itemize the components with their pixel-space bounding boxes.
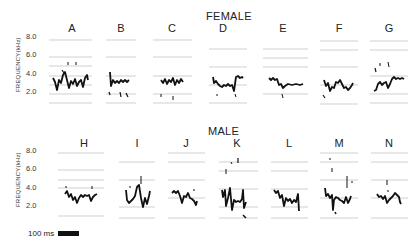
scale-bar-label: 100 ms: [28, 229, 54, 238]
sonogram-plots: [0, 0, 418, 243]
pitch-traces-male: [65, 158, 401, 218]
pitch-traces-female: [53, 62, 404, 100]
scale-bar: [58, 231, 79, 236]
grid-lines-female: [49, 40, 408, 104]
